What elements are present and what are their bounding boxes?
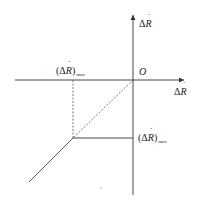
label-open: (Δ <box>56 65 66 76</box>
label-open: (Δ <box>138 132 148 143</box>
subscript-max: max <box>76 72 85 77</box>
max-limit-label-right: (ΔR)max <box>138 133 167 144</box>
origin-label: O <box>139 67 146 77</box>
r-dot-variable: R <box>66 66 72 76</box>
r-dot-variable: R <box>145 19 151 29</box>
diagram-canvas <box>0 0 200 203</box>
label-close: ) <box>154 132 157 143</box>
dashed-diagonal-line <box>73 80 133 138</box>
r-dot-variable: R <box>180 87 186 97</box>
r-dot-variable: R <box>148 133 154 143</box>
horizontal-axis-label: ΔR <box>174 87 187 97</box>
max-limit-label-left: (ΔR)max <box>56 66 85 77</box>
subscript-max: max <box>158 139 167 144</box>
vertical-axis-label: ΔR <box>139 19 152 29</box>
solid-diagonal-line <box>29 138 73 182</box>
label-close: ) <box>72 65 75 76</box>
small-dot-mark <box>100 187 101 188</box>
